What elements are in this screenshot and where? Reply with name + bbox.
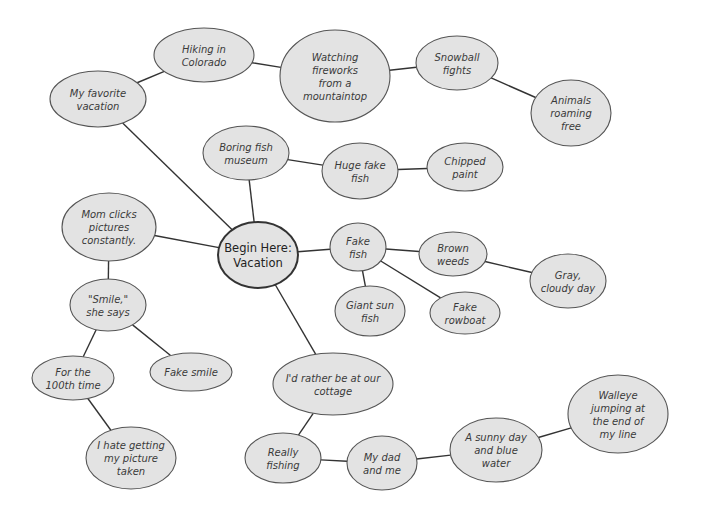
connector-smile-hundredth [83, 330, 96, 357]
cluster-diagram: Begin Here:VacationMy favoritevacationHi… [0, 0, 704, 511]
idea-node-animals: Animalsroamingfree [531, 80, 611, 146]
bubble-text-line: Hiking in [182, 44, 226, 55]
idea-node-sunny: A sunny dayand bluewater [450, 418, 542, 482]
idea-node-fakesmile: Fake smile [150, 353, 232, 391]
connector-dad-sunny [417, 455, 451, 459]
bubble-text-line: the end of [592, 416, 645, 427]
connector-really-dad [321, 460, 347, 461]
connector-center-museum [249, 180, 254, 222]
bubble-text-line: Begin Here: [224, 241, 292, 255]
connector-sunny-walleye [538, 428, 571, 438]
idea-node-hate: I hate gettingmy picturetaken [86, 427, 176, 489]
connector-favorite-hiking [137, 71, 164, 82]
bubble-text-line: Huge fake [334, 160, 385, 171]
bubble-text-line: taken [117, 466, 145, 477]
bubble-text-line: Fake [453, 302, 477, 313]
bubble-text-line: Fake smile [164, 367, 218, 378]
idea-node-favorite: My favoritevacation [50, 71, 146, 127]
bubble-text-line: paint [451, 169, 479, 180]
bubble-text-line: fights [443, 65, 471, 76]
idea-node-cottage: I'd rather be at ourcottage [273, 353, 393, 415]
idea-node-gray: Gray,cloudy day [530, 254, 606, 308]
bubble-text-line: my line [600, 429, 637, 440]
bubble-shape [347, 436, 417, 490]
bubble-shape [322, 143, 398, 199]
idea-node-sunfish: Giant sunfish [335, 286, 405, 336]
bubble-text-line: fish [349, 249, 367, 260]
bubble-text-line: Gray, [555, 270, 581, 281]
bubble-text-line: "Smile," [88, 294, 128, 305]
bubble-shape [154, 28, 254, 82]
bubble-text-line: constantly. [82, 235, 137, 246]
connector-smile-fakesmile [133, 325, 171, 356]
bubble-text-line: My favorite [70, 88, 126, 99]
bubble-text-line: Vacation [233, 256, 282, 270]
bubble-text-line: cloudy day [541, 283, 597, 294]
idea-node-walleye: Walleyejumping atthe end ofmy line [568, 375, 668, 453]
bubble-text-line: For the [55, 367, 91, 378]
connector-fakefish-weeds [386, 249, 419, 251]
bubble-text-line: and me [363, 465, 401, 476]
bubble-text-line: cottage [314, 386, 352, 397]
bubble-text-line: Brown [437, 243, 469, 254]
connector-fakefish-sunfish [362, 271, 365, 287]
connector-weeds-gray [485, 262, 532, 273]
bubble-text-line: vacation [77, 101, 120, 112]
bubble-shape [330, 223, 386, 271]
bubble-text-line: weeds [437, 256, 469, 267]
idea-node-fireworks: Watchingfireworksfrom amountaintop [280, 30, 390, 122]
bubble-shape [70, 279, 146, 331]
bubble-text-line: Colorado [182, 57, 227, 68]
connector-museum-hugefish [288, 160, 323, 166]
connector-center-mom [154, 236, 219, 248]
bubble-text-line: Fake [346, 236, 370, 247]
connector-hiking-fireworks [252, 63, 281, 68]
bubble-text-line: museum [224, 155, 268, 166]
bubble-shape [416, 36, 498, 90]
bubble-text-line: Really [268, 447, 300, 458]
bubble-shape [280, 30, 390, 122]
bubble-text-line: pictures [88, 222, 129, 233]
idea-node-really: Reallyfishing [245, 433, 321, 483]
bubble-text-line: fishing [266, 460, 299, 471]
idea-node-hundredth: For the100th time [32, 356, 114, 400]
center-node: Begin Here:Vacation [218, 222, 298, 288]
bubble-text-line: My dad [364, 452, 401, 463]
bubble-shape [245, 433, 321, 483]
connector-center-fakefish [298, 249, 330, 252]
bubble-text-line: from a [319, 78, 352, 89]
bubble-text-line: she says [86, 307, 129, 318]
bubble-text-line: A sunny day [464, 432, 528, 443]
bubble-text-line: Mom clicks [81, 209, 136, 220]
connector-hundredth-hate [88, 399, 111, 431]
bubble-shape [32, 356, 114, 400]
connector-snowball-animals [491, 78, 536, 98]
bubble-text-line: jumping at [589, 403, 646, 414]
bubble-text-line: I hate getting [97, 440, 165, 451]
bubble-text-line: I'd rather be at our [286, 373, 382, 384]
bubble-text-line: 100th time [45, 380, 100, 391]
bubble-text-line: Walleye [598, 390, 637, 401]
idea-node-weeds: Brownweeds [419, 232, 487, 276]
bubble-text-line: Snowball [434, 52, 479, 63]
bubble-text-line: mountaintop [303, 91, 367, 102]
bubble-shape [335, 286, 405, 336]
bubble-shape [568, 375, 668, 453]
idea-bubbles: Begin Here:VacationMy favoritevacationHi… [32, 28, 668, 490]
bubble-text-line: and blue [474, 445, 518, 456]
bubble-shape [427, 143, 503, 191]
bubble-text-line: Chipped [444, 156, 486, 167]
idea-node-mom: Mom clickspicturesconstantly. [62, 193, 156, 261]
bubble-text-line: rowboat [445, 315, 487, 326]
bubble-shape [273, 353, 393, 415]
idea-node-hiking: Hiking inColorado [154, 28, 254, 82]
idea-node-dad: My dadand me [347, 436, 417, 490]
connector-hugefish-chipped [398, 168, 427, 169]
idea-node-rowboat: Fakerowboat [430, 292, 500, 334]
idea-node-smile: "Smile,"she says [70, 279, 146, 331]
bubble-text-line: roaming [550, 108, 592, 119]
idea-node-chipped: Chippedpaint [427, 143, 503, 191]
bubble-shape [430, 292, 500, 334]
bubble-shape [419, 232, 487, 276]
bubble-text-line: Animals [550, 95, 591, 106]
